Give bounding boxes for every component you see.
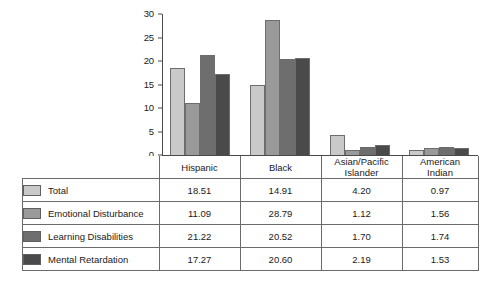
category-header-3: Asian/PacificIslander bbox=[321, 156, 402, 179]
bar bbox=[295, 58, 310, 155]
table-cell-value: 1.70 bbox=[321, 225, 402, 248]
legend-swatch-icon bbox=[23, 185, 41, 196]
legend-swatch-icon bbox=[23, 254, 41, 265]
bars-container bbox=[163, 14, 478, 155]
category-header-2: Black bbox=[240, 156, 321, 179]
legend-label: Emotional Disturbance bbox=[48, 208, 144, 219]
legend-cell: Learning Disabilities bbox=[23, 225, 160, 248]
bar bbox=[375, 145, 390, 155]
table-cell-value: 28.79 bbox=[240, 202, 321, 225]
bar-chart-figure: 051015202530 HispanicBlackAsian/PacificI… bbox=[0, 0, 501, 301]
category-header-line1: Black bbox=[269, 162, 292, 173]
table-row: Mental Retardation17.2720.602.191.53 bbox=[23, 248, 479, 271]
bar bbox=[250, 85, 265, 155]
y-tick-label: 20 bbox=[144, 56, 154, 66]
bar bbox=[215, 74, 230, 155]
y-tick-label: 10 bbox=[144, 103, 154, 113]
y-tick-label: 25 bbox=[144, 33, 154, 43]
table-cell-value: 0.97 bbox=[402, 179, 478, 202]
bar bbox=[185, 103, 200, 155]
table-cell-value: 1.56 bbox=[402, 202, 478, 225]
table-body: HispanicBlackAsian/PacificIslanderAmeric… bbox=[23, 156, 479, 271]
table-cell-value: 20.52 bbox=[240, 225, 321, 248]
bar bbox=[330, 135, 345, 155]
y-tick-label: 5 bbox=[149, 127, 154, 137]
category-header-line1: Hispanic bbox=[181, 162, 217, 173]
bar-group bbox=[163, 14, 243, 155]
category-header-line2: Indian bbox=[403, 167, 478, 178]
legend-label: Mental Retardation bbox=[48, 254, 128, 265]
category-header-1: Hispanic bbox=[159, 156, 240, 179]
plot-area: 051015202530 bbox=[136, 14, 478, 156]
bar bbox=[454, 148, 469, 155]
table-cell-value: 18.51 bbox=[159, 179, 240, 202]
y-tick-label: 15 bbox=[144, 80, 154, 90]
bar-group bbox=[243, 14, 323, 155]
bar bbox=[265, 20, 280, 155]
table-cell-value: 11.09 bbox=[159, 202, 240, 225]
legend-inner: Emotional Disturbance bbox=[23, 208, 159, 219]
bar bbox=[200, 55, 215, 155]
y-tick-label: 30 bbox=[144, 9, 154, 19]
legend-label: Learning Disabilities bbox=[48, 231, 133, 242]
legend-inner: Learning Disabilities bbox=[23, 231, 159, 242]
category-header-line1: American bbox=[420, 156, 460, 167]
bar bbox=[424, 148, 439, 155]
category-header-line1: Asian/Pacific bbox=[334, 156, 388, 167]
table-cell-value: 4.20 bbox=[321, 179, 402, 202]
legend-cell: Total bbox=[23, 179, 160, 202]
table-cell-value: 20.60 bbox=[240, 248, 321, 271]
table-cell-value: 17.27 bbox=[159, 248, 240, 271]
bar bbox=[409, 150, 424, 155]
bar-group bbox=[323, 14, 403, 155]
data-table: HispanicBlackAsian/PacificIslanderAmeric… bbox=[22, 156, 479, 271]
table-cell-value: 21.22 bbox=[159, 225, 240, 248]
table-cell-value: 2.19 bbox=[321, 248, 402, 271]
table-cell-value: 1.53 bbox=[402, 248, 478, 271]
table-row: Learning Disabilities21.2220.521.701.74 bbox=[23, 225, 479, 248]
bar bbox=[280, 59, 295, 155]
table-row: Emotional Disturbance11.0928.791.121.56 bbox=[23, 202, 479, 225]
bar bbox=[360, 147, 375, 155]
legend-label: Total bbox=[48, 185, 68, 196]
bar-group bbox=[403, 14, 478, 155]
table-row: Total18.5114.914.200.97 bbox=[23, 179, 479, 202]
y-axis: 051015202530 bbox=[136, 14, 162, 156]
legend-swatch-icon bbox=[23, 208, 41, 219]
legend-inner: Total bbox=[23, 185, 159, 196]
legend-cell: Mental Retardation bbox=[23, 248, 160, 271]
legend-cell: Emotional Disturbance bbox=[23, 202, 160, 225]
bar bbox=[439, 147, 454, 155]
category-header-4: AmericanIndian bbox=[402, 156, 478, 179]
legend-inner: Mental Retardation bbox=[23, 254, 159, 265]
legend-swatch-icon bbox=[23, 231, 41, 242]
table-cell-value: 1.12 bbox=[321, 202, 402, 225]
bar bbox=[170, 68, 185, 155]
table-cell-value: 14.91 bbox=[240, 179, 321, 202]
table-corner-cell bbox=[23, 156, 160, 179]
table-cell-value: 1.74 bbox=[402, 225, 478, 248]
bar bbox=[345, 150, 360, 155]
category-header-line2: Islander bbox=[322, 167, 402, 178]
table-header-row: HispanicBlackAsian/PacificIslanderAmeric… bbox=[23, 156, 479, 179]
